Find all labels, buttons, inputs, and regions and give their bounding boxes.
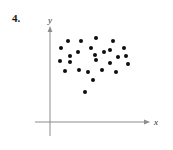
- scatter-point: [108, 48, 112, 52]
- scatter-point: [58, 59, 62, 63]
- scatter-point: [94, 36, 98, 40]
- scatter-point: [83, 90, 87, 94]
- scatter-point: [77, 68, 81, 72]
- scatter-point: [108, 61, 112, 65]
- scatter-point: [91, 78, 95, 82]
- scatter-point: [59, 46, 63, 50]
- scatter-point: [100, 68, 104, 72]
- scatter-point: [63, 69, 67, 73]
- scatter-plot-figure: 4. y x: [0, 0, 173, 150]
- scatter-point: [124, 54, 128, 58]
- scatter-point: [79, 39, 83, 43]
- scatter-point: [102, 50, 106, 54]
- scatter-point: [126, 62, 130, 66]
- scatter-point: [66, 39, 70, 43]
- scatter-points-layer: [0, 0, 173, 150]
- scatter-point: [76, 50, 80, 54]
- scatter-point: [68, 54, 72, 58]
- scatter-point: [111, 39, 115, 43]
- scatter-point: [116, 55, 120, 59]
- scatter-point: [94, 58, 98, 62]
- scatter-point: [122, 46, 126, 50]
- scatter-point: [114, 70, 118, 74]
- scatter-point: [93, 53, 97, 57]
- scatter-point: [89, 46, 93, 50]
- scatter-point: [68, 60, 72, 64]
- scatter-point: [86, 70, 90, 74]
